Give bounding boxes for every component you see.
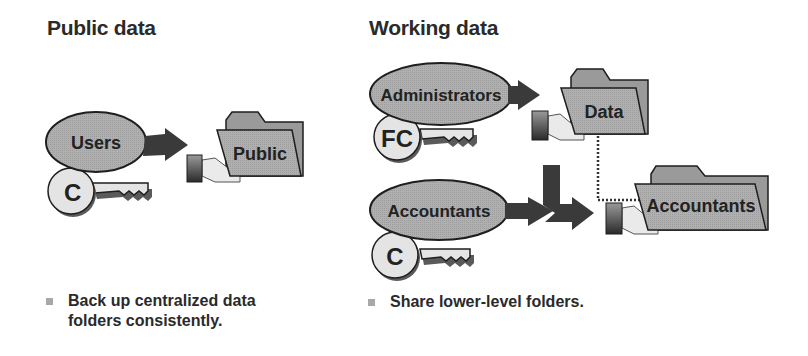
public-data-bullet: Back up centralized data folders consist… xyxy=(46,291,306,331)
public-folder: Public xyxy=(187,112,303,182)
data-folder-label: Data xyxy=(584,102,624,122)
accountants-group-label: Accountants xyxy=(388,202,491,221)
data-folder: Data xyxy=(532,69,648,140)
working-data-bullet: Share lower-level folders. xyxy=(368,292,668,312)
administrators-group: FC Administrators xyxy=(370,63,540,163)
bullet-square-icon xyxy=(368,299,375,306)
key-permission: C xyxy=(64,179,81,206)
arrow-icon xyxy=(143,128,188,161)
bullet-square-icon xyxy=(46,298,53,305)
users-label: Users xyxy=(71,133,121,153)
arrow-icon xyxy=(508,80,540,110)
inheritance-connector xyxy=(598,136,640,200)
accountants-folder-label: Accountants xyxy=(646,196,755,216)
cuff-icon xyxy=(532,111,548,140)
public-data-bullet-text: Back up centralized data folders consist… xyxy=(68,291,306,331)
key-permission: C xyxy=(386,243,403,270)
inherit-arrow-icon xyxy=(543,165,594,230)
cuff-icon xyxy=(187,155,202,182)
public-group: C Users Public xyxy=(46,112,303,217)
public-folder-label: Public xyxy=(233,144,287,164)
accountants-group: C Accountants xyxy=(370,165,594,281)
key-icon: C xyxy=(48,168,152,217)
working-data-bullet-text: Share lower-level folders. xyxy=(390,292,584,312)
key-permission: FC xyxy=(381,125,413,152)
administrators-label: Administrators xyxy=(381,86,502,105)
cuff-icon xyxy=(606,203,622,234)
